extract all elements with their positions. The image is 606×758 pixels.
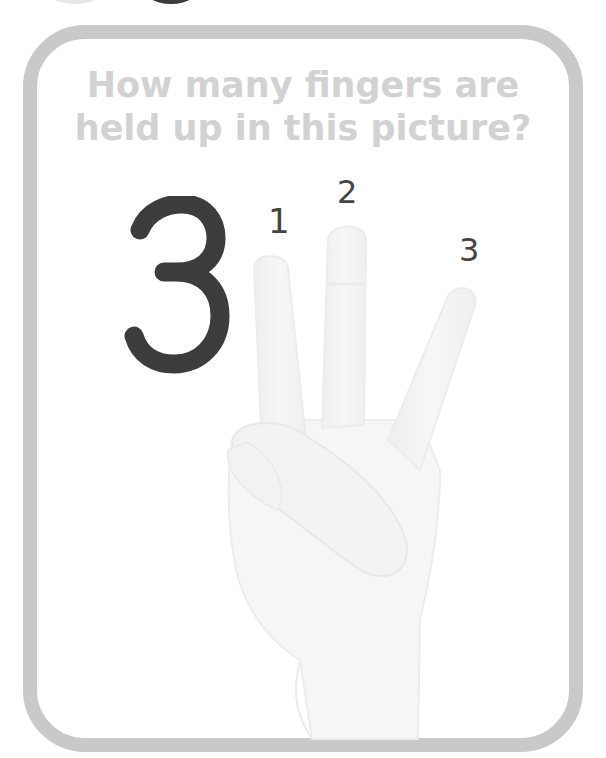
finger-label-1: 1 bbox=[268, 205, 290, 237]
answer-numeral bbox=[118, 196, 234, 376]
finger-label-2: 2 bbox=[337, 176, 357, 208]
finger-index bbox=[254, 256, 306, 450]
finger-middle bbox=[322, 227, 366, 429]
question-line-1: How many fingers are bbox=[0, 64, 606, 107]
finger-ring bbox=[388, 288, 476, 470]
question-line-2: held up in this picture? bbox=[0, 107, 606, 150]
finger-label-3: 3 bbox=[459, 234, 479, 266]
question-title: How many fingers are held up in this pic… bbox=[0, 64, 606, 150]
